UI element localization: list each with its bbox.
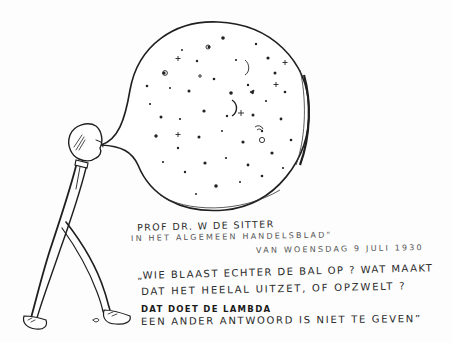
universe-balloon	[101, 22, 309, 211]
cartoon-canvas: PROF DR. W DE SITTER IN HET ALGEMEEN HAN…	[0, 0, 452, 343]
quote-line-3: DAT DOET DE LAMBDA	[141, 304, 271, 314]
man-figure	[24, 124, 131, 329]
